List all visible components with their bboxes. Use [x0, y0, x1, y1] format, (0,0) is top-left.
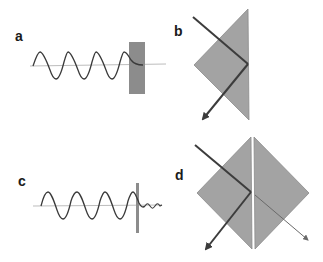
thick-barrier [129, 42, 145, 94]
transmitted-wave [145, 204, 162, 209]
panel-d [195, 137, 309, 249]
axis-line [33, 205, 162, 206]
panel-c [33, 183, 162, 233]
right-prism [254, 137, 309, 249]
thin-barrier [136, 183, 139, 233]
panel-a [30, 42, 166, 94]
panel-b [193, 9, 249, 120]
figure-canvas [0, 0, 323, 262]
axis-line [30, 64, 166, 66]
